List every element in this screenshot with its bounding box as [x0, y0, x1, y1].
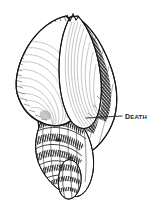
shell-drawing — [0, 0, 158, 211]
shell-illustration-figure: Death — [0, 0, 158, 211]
callout-label-death: Death — [125, 110, 147, 121]
